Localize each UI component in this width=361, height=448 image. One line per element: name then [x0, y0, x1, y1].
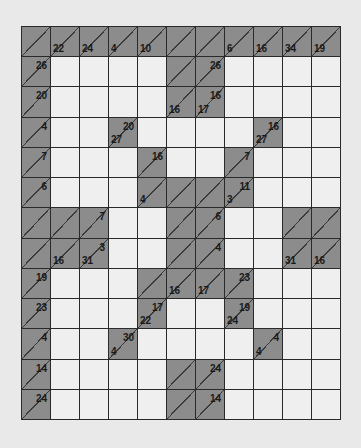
entry-cell[interactable]: [138, 208, 166, 237]
entry-cell[interactable]: [254, 57, 282, 86]
across-clue: 20: [123, 121, 134, 132]
entry-cell[interactable]: [196, 148, 224, 177]
entry-cell[interactable]: [283, 87, 311, 116]
entry-cell[interactable]: [80, 87, 108, 116]
entry-cell[interactable]: [312, 390, 340, 419]
clue-cell: 24: [22, 390, 50, 419]
entry-cell[interactable]: [80, 118, 108, 147]
entry-cell[interactable]: [51, 360, 79, 389]
entry-cell[interactable]: [167, 118, 195, 147]
entry-cell[interactable]: [283, 178, 311, 207]
entry-cell[interactable]: [80, 299, 108, 328]
entry-cell[interactable]: [167, 329, 195, 358]
entry-cell[interactable]: [51, 390, 79, 419]
entry-cell[interactable]: [80, 269, 108, 298]
clue-cell: 331: [80, 239, 108, 268]
entry-cell[interactable]: [225, 57, 253, 86]
entry-cell[interactable]: [283, 269, 311, 298]
clue-cell: [167, 239, 195, 268]
entry-cell[interactable]: [283, 360, 311, 389]
entry-cell[interactable]: [138, 390, 166, 419]
entry-cell[interactable]: [254, 178, 282, 207]
entry-cell[interactable]: [51, 329, 79, 358]
entry-cell[interactable]: [312, 87, 340, 116]
entry-cell[interactable]: [225, 360, 253, 389]
entry-cell[interactable]: [109, 239, 137, 268]
entry-cell[interactable]: [138, 87, 166, 116]
entry-cell[interactable]: [312, 118, 340, 147]
entry-cell[interactable]: [138, 239, 166, 268]
entry-cell[interactable]: [196, 118, 224, 147]
entry-cell[interactable]: [80, 329, 108, 358]
entry-cell[interactable]: [51, 299, 79, 328]
entry-cell[interactable]: [312, 299, 340, 328]
entry-cell[interactable]: [80, 148, 108, 177]
clue-cell: 7: [225, 148, 253, 177]
entry-cell[interactable]: [283, 299, 311, 328]
entry-cell[interactable]: [138, 118, 166, 147]
entry-cell[interactable]: [51, 148, 79, 177]
entry-cell[interactable]: [109, 360, 137, 389]
down-clue: 4: [140, 194, 146, 205]
entry-cell[interactable]: [109, 178, 137, 207]
entry-cell[interactable]: [138, 57, 166, 86]
down-clue: 10: [140, 43, 151, 54]
entry-cell[interactable]: [225, 87, 253, 116]
entry-cell[interactable]: [225, 118, 253, 147]
entry-cell[interactable]: [51, 118, 79, 147]
entry-cell[interactable]: [283, 57, 311, 86]
clue-cell: 113: [225, 178, 253, 207]
entry-cell[interactable]: [312, 57, 340, 86]
clue-cell: 1924: [225, 299, 253, 328]
entry-cell[interactable]: [254, 87, 282, 116]
entry-cell[interactable]: [196, 299, 224, 328]
clue-cell: [167, 208, 195, 237]
entry-cell[interactable]: [312, 360, 340, 389]
entry-cell[interactable]: [312, 329, 340, 358]
entry-cell[interactable]: [167, 148, 195, 177]
entry-cell[interactable]: [109, 208, 137, 237]
entry-cell[interactable]: [109, 87, 137, 116]
entry-cell[interactable]: [283, 390, 311, 419]
entry-cell[interactable]: [109, 390, 137, 419]
entry-cell[interactable]: [254, 299, 282, 328]
entry-cell[interactable]: [80, 360, 108, 389]
entry-cell[interactable]: [312, 178, 340, 207]
entry-cell[interactable]: [51, 269, 79, 298]
entry-cell[interactable]: [283, 148, 311, 177]
entry-cell[interactable]: [283, 118, 311, 147]
entry-cell[interactable]: [254, 390, 282, 419]
entry-cell[interactable]: [254, 269, 282, 298]
clue-cell: 7: [22, 148, 50, 177]
entry-cell[interactable]: [109, 269, 137, 298]
entry-cell[interactable]: [138, 329, 166, 358]
entry-cell[interactable]: [283, 329, 311, 358]
down-clue: 3: [227, 194, 233, 205]
clue-cell: 10: [138, 27, 166, 56]
entry-cell[interactable]: [80, 57, 108, 86]
entry-cell[interactable]: [254, 360, 282, 389]
clue-cell: 7: [80, 208, 108, 237]
entry-cell[interactable]: [225, 329, 253, 358]
entry-cell[interactable]: [225, 208, 253, 237]
entry-cell[interactable]: [254, 208, 282, 237]
entry-cell[interactable]: [225, 239, 253, 268]
entry-cell[interactable]: [254, 148, 282, 177]
entry-cell[interactable]: [51, 87, 79, 116]
entry-cell[interactable]: [225, 390, 253, 419]
entry-cell[interactable]: [80, 178, 108, 207]
entry-cell[interactable]: [312, 148, 340, 177]
clue-cell: 16: [51, 239, 79, 268]
entry-cell[interactable]: [51, 57, 79, 86]
down-clue: 4: [256, 346, 262, 357]
entry-cell[interactable]: [254, 239, 282, 268]
entry-cell[interactable]: [109, 57, 137, 86]
entry-cell[interactable]: [312, 269, 340, 298]
entry-cell[interactable]: [196, 329, 224, 358]
entry-cell[interactable]: [51, 178, 79, 207]
entry-cell[interactable]: [109, 148, 137, 177]
entry-cell[interactable]: [80, 390, 108, 419]
entry-cell[interactable]: [138, 360, 166, 389]
entry-cell[interactable]: [167, 299, 195, 328]
entry-cell[interactable]: [109, 299, 137, 328]
